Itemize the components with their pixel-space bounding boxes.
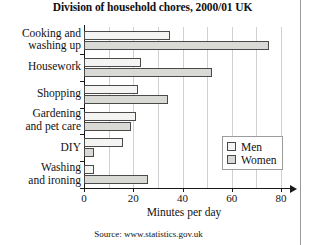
x-tick-label: 20: [120, 192, 146, 204]
legend-swatch-women: [227, 155, 236, 164]
legend-swatch-men: [227, 142, 236, 151]
category-label: DIY: [0, 141, 81, 154]
category-label: Housework: [0, 60, 81, 73]
y-tick: [80, 134, 84, 135]
chart-title: Division of household chores, 2000/01 UK: [10, 1, 295, 13]
bar-women-3[interactable]: [84, 122, 131, 131]
category-label: Cooking and washing up: [0, 27, 81, 52]
category-label: Shopping: [0, 87, 81, 100]
bar-women-4[interactable]: [84, 148, 94, 157]
bar-women-1[interactable]: [84, 68, 212, 77]
bar-men-3[interactable]: [84, 112, 136, 121]
gridline-minor: [207, 27, 208, 188]
x-axis-label: Minutes per day: [84, 206, 284, 218]
chart-page: Division of household chores, 2000/01 UK…: [0, 0, 320, 245]
gridline-minor: [158, 27, 159, 188]
bar-men-0[interactable]: [84, 31, 170, 40]
legend-item-women[interactable]: Women: [227, 153, 276, 166]
page-border-rule: [300, 0, 301, 245]
y-tick: [80, 54, 84, 55]
x-tick-label: 0: [71, 192, 97, 204]
y-tick: [80, 81, 84, 82]
category-label: Gardening and pet care: [0, 107, 81, 132]
x-tick-label: 40: [170, 192, 196, 204]
x-tick-label: 60: [219, 192, 245, 204]
bar-men-2[interactable]: [84, 85, 138, 94]
x-axis-line: [84, 188, 292, 189]
bar-men-5[interactable]: [84, 165, 94, 174]
gridline: [183, 27, 184, 188]
bar-men-4[interactable]: [84, 138, 123, 147]
bar-women-5[interactable]: [84, 175, 148, 184]
legend-item-men[interactable]: Men: [227, 140, 276, 153]
category-label: Washing and ironing: [0, 161, 81, 186]
bar-women-0[interactable]: [84, 41, 269, 50]
gridline: [133, 27, 134, 188]
bar-women-2[interactable]: [84, 95, 168, 104]
source-note: Source: www.statistics.gov.uk: [0, 229, 297, 239]
legend-label-men: Men: [241, 141, 262, 153]
y-tick: [80, 188, 84, 189]
x-tick-label: 80: [268, 192, 294, 204]
legend-label-women: Women: [241, 154, 276, 166]
gridline-minor: [109, 27, 110, 188]
legend: Men Women: [222, 136, 283, 170]
bar-men-1[interactable]: [84, 58, 141, 67]
